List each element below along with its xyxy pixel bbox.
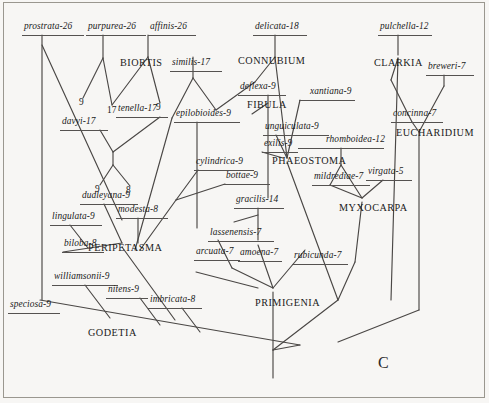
taxon-label-exilis: exilis-9 [264,139,292,148]
taxon-label-mildrediae: mildrediae-7 [314,172,363,181]
taxon-label-bottae: bottae-9 [226,171,258,180]
underline-rhomboidea [298,148,384,149]
clade-label-myxocarpa: MYXOCARPA [339,203,408,213]
underline-pulchella [378,35,432,36]
clade-label-connubium: CONNUBIUM [238,56,305,66]
underline-imbricata [148,308,202,309]
taxon-label-williamsonii: williamsonii-9 [54,272,110,281]
underline-delicata [253,35,307,36]
taxon-label-tenella: tenella-17 [118,104,157,113]
taxon-label-davyi: davyi-17 [62,117,96,126]
branch-number-biortis-right: 9 [156,103,161,112]
clade-label-peripetasma: PERIPETASMA [88,243,162,253]
underline-amoena [238,261,282,262]
taxon-label-unguiculata: unguiculata-9 [265,122,319,131]
underline-mildrediae [312,185,370,186]
underline-arcuata [194,260,240,261]
underline-prostrata [22,35,84,36]
panel-letter: C [378,355,389,371]
taxon-label-purpurea: purpurea-26 [88,22,136,31]
taxon-label-pulchella: pulchella-12 [380,22,429,31]
taxon-label-nitens: nitens-9 [108,285,139,294]
taxon-label-lassenensis: lassenensis-7 [210,228,261,237]
underline-lassenensis [208,241,274,242]
underline-deflexa [238,95,286,96]
underline-nitens [106,298,148,299]
underline-virgata [366,180,412,181]
branch-number-biortis-mid: 17 [107,106,116,115]
clade-label-clarkia: CLARKIA [374,58,423,68]
taxon-label-affinis: affinis-26 [150,22,187,31]
underline-davyi [60,130,108,131]
clade-label-phaeostoma: PHAEOSTOMA [272,156,346,166]
taxon-label-gracilis: gracilis-14 [236,195,278,204]
clade-label-biortis: BIORTIS [120,58,163,68]
taxon-label-xantiana: xantiana-9 [310,87,352,96]
underline-concinna [391,122,443,123]
taxon-label-epilobioides: epilobioides-9 [176,109,231,118]
underline-similis [170,71,222,72]
underline-epilobioides [174,122,240,123]
underline-gracilis [234,208,284,209]
underline-unguiculata [263,135,329,136]
cladogram-figure: prostrata-26 purpurea-26 affinis-26 simi… [0,0,489,403]
taxon-label-modesta: modesta-8 [118,205,158,214]
taxon-label-concinna: concinna-7 [393,109,436,118]
underline-xantiana [299,100,355,101]
underline-exilis [262,152,298,153]
clade-label-eucharidium: EUCHARIDIUM [396,128,474,138]
taxon-label-imbricata: imbricata-8 [150,295,195,304]
underline-rubicunda [292,264,348,265]
underline-lingulata [50,225,102,226]
branch-number-tenella: 8 [126,186,131,195]
taxon-label-arcuata: arcuata-7 [196,247,234,256]
taxon-label-lingulata: lingulata-9 [52,212,95,221]
clade-label-fibula: FIBULA [247,100,287,110]
underline-tenella [116,117,168,118]
underline-breweri [426,75,474,76]
taxon-label-speciosa: speciosa-9 [10,300,51,309]
underline-speciosa [8,313,60,314]
underline-bottae [224,184,270,185]
taxon-label-breweri: breweri-7 [428,62,466,71]
underline-purpurea [86,35,146,36]
taxon-label-rubicunda: rubicunda-7 [294,251,341,260]
taxon-label-cylindrica: cylindrica-9 [196,157,243,166]
taxon-label-amoena: amoena-7 [240,248,278,257]
taxon-label-delicata: delicata-18 [255,22,299,31]
taxon-label-similis: similis-17 [172,58,210,67]
taxon-label-virgata: virgata-5 [368,167,403,176]
taxon-label-rhomboidea: rhomboidea-12 [326,135,385,144]
taxon-label-prostrata: prostrata-26 [24,22,72,31]
branch-number-davyi: 9 [95,185,100,194]
taxon-label-deflexa: deflexa-9 [240,82,276,91]
taxon-label-dudleyana: dudleyana-9 [82,191,130,200]
clade-label-godetia: GODETIA [88,328,137,338]
branch-number-biortis-left: 9 [79,98,84,107]
underline-affinis [148,35,196,36]
underline-modesta [116,218,168,219]
clade-label-primigenia: PRIMIGENIA [255,298,320,308]
